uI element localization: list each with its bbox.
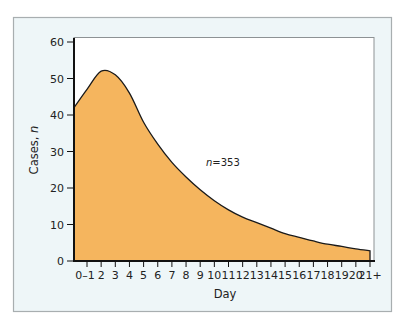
x-tick-label: 9	[197, 269, 204, 282]
x-tick-label: 8	[183, 269, 190, 282]
x-tick-label: 3	[112, 269, 119, 282]
x-tick-label: 17	[306, 269, 320, 282]
x-tick-label: 15	[278, 269, 292, 282]
x-tick-label: 5	[140, 269, 147, 282]
chart: 01020304050600–1234567891011121314151617…	[0, 0, 403, 325]
x-tick-label: 2	[98, 269, 105, 282]
y-tick-label: 60	[50, 36, 64, 49]
y-tick-label: 10	[50, 219, 64, 232]
y-axis-title: Cases, n	[27, 126, 41, 175]
y-tick-label: 50	[50, 73, 64, 86]
x-tick-label: 12	[236, 269, 250, 282]
x-tick-label: 10	[207, 269, 221, 282]
x-tick-label: 18	[321, 269, 335, 282]
y-tick-label: 20	[50, 182, 64, 195]
x-tick-label: 14	[264, 269, 278, 282]
y-tick-label: 30	[50, 146, 64, 159]
x-tick-label: 6	[154, 269, 161, 282]
x-tick-label: 19	[335, 269, 349, 282]
x-tick-label: 16	[292, 269, 306, 282]
x-tick-label: 21+	[358, 269, 381, 282]
sample-size-annotation: n=353	[206, 157, 240, 168]
x-tick-label: 13	[250, 269, 264, 282]
y-tick-label: 40	[50, 109, 64, 122]
x-tick-label: 0–1	[75, 269, 95, 282]
x-tick-label: 11	[222, 269, 236, 282]
x-tick-label: 4	[126, 269, 133, 282]
x-tick-label: 7	[168, 269, 175, 282]
x-axis-title: Day	[214, 287, 237, 301]
y-tick-label: 0	[57, 255, 64, 268]
